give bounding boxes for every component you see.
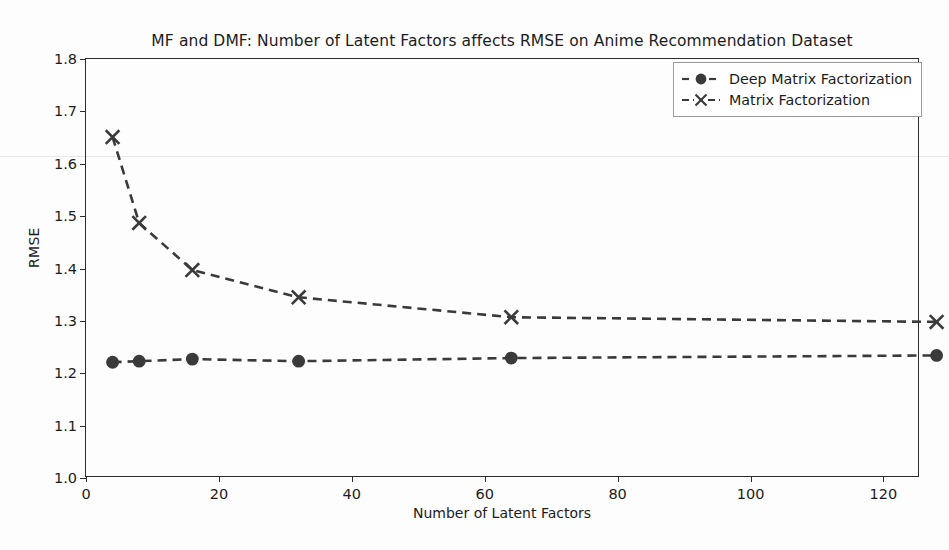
x-axis-label: Number of Latent Factors <box>85 505 919 521</box>
series-deep-matrix-factorization <box>106 349 943 369</box>
x-tick-label: 120 <box>870 486 898 502</box>
legend-marker-circle-icon <box>681 71 721 87</box>
y-tick-label: 1.4 <box>54 261 77 277</box>
series-line <box>113 355 937 362</box>
x-tick-label: 100 <box>737 486 765 502</box>
y-tick-label: 1.1 <box>54 418 77 434</box>
x-tick-label: 0 <box>81 486 90 502</box>
plot-inner: 1.01.11.21.31.41.51.61.71.8 020406080100… <box>86 59 918 476</box>
legend-marker-x-icon <box>681 92 721 108</box>
data-point-marker-circle <box>106 356 119 369</box>
y-tick-label: 1.3 <box>54 313 77 329</box>
figure-canvas: MF and DMF: Number of Latent Factors aff… <box>0 0 949 550</box>
series-line <box>113 137 937 322</box>
x-tick-label: 80 <box>608 486 626 502</box>
data-point-marker-circle <box>292 355 305 368</box>
y-tick-label: 1.6 <box>54 156 77 172</box>
legend: Deep Matrix Factorization Matrix Factori… <box>673 62 922 117</box>
y-tick-label: 1.5 <box>54 208 77 224</box>
series-matrix-factorization <box>106 130 944 328</box>
y-tick-label: 1.2 <box>54 365 77 381</box>
y-axis-label: RMSE <box>26 227 42 268</box>
data-point-marker-circle <box>186 353 199 366</box>
legend-label: Matrix Factorization <box>729 92 870 108</box>
x-tick-label: 40 <box>343 486 361 502</box>
chart-title: MF and DMF: Number of Latent Factors aff… <box>85 32 919 50</box>
legend-label: Deep Matrix Factorization <box>729 71 912 87</box>
legend-item-matrix-factorization[interactable]: Matrix Factorization <box>681 89 912 110</box>
data-point-marker-circle <box>930 349 943 362</box>
x-tick-label: 20 <box>210 486 228 502</box>
y-tick-label: 1.0 <box>54 470 77 486</box>
legend-item-deep-matrix-factorization[interactable]: Deep Matrix Factorization <box>681 68 912 89</box>
plot-area: 1.01.11.21.31.41.51.61.71.8 020406080100… <box>85 58 919 477</box>
series-layer <box>86 59 920 478</box>
data-point-marker-circle <box>133 355 146 368</box>
y-tick-label: 1.7 <box>54 103 77 119</box>
y-tick-label: 1.8 <box>54 51 77 67</box>
data-point-marker-circle <box>505 352 518 365</box>
x-tick-label: 60 <box>475 486 493 502</box>
